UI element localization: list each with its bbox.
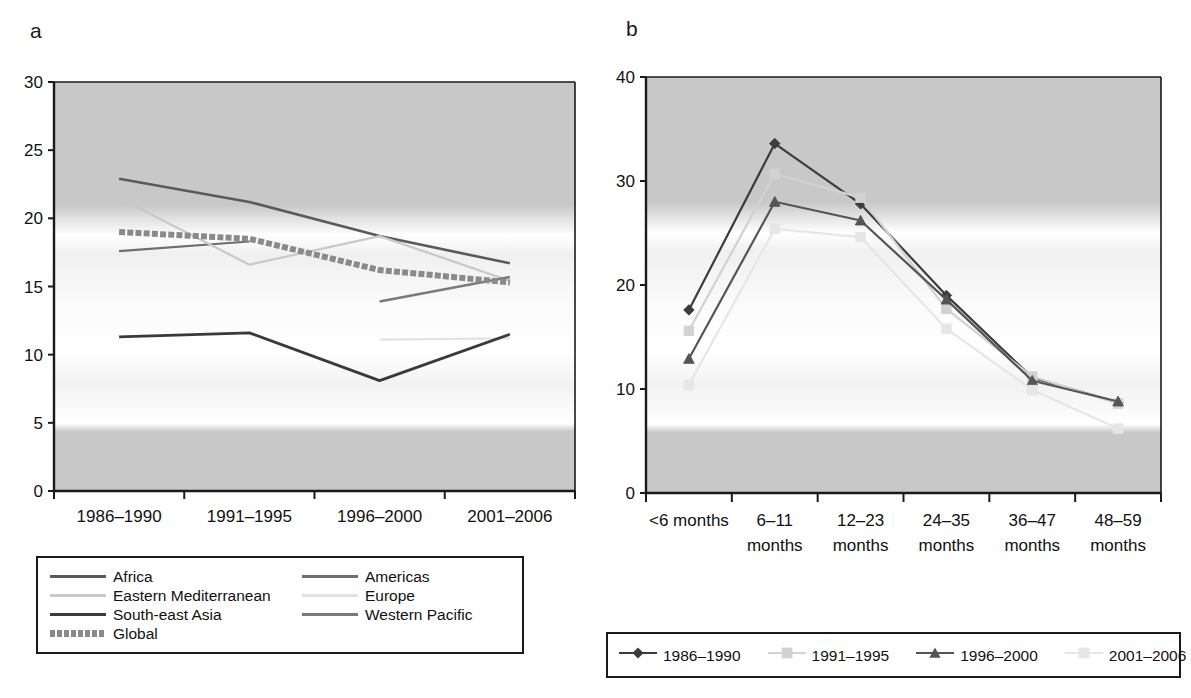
y-tick-label: 20 (24, 209, 43, 228)
legend-swatch-line-icon (302, 575, 358, 578)
plot-background (54, 82, 575, 491)
x-category-label-line2: months (1004, 536, 1060, 555)
data-point-square-marker (1113, 424, 1122, 433)
x-category-label-line2: months (747, 536, 803, 555)
legend-swatch-line-icon (50, 630, 106, 637)
legend-swatch-line-icon (302, 594, 358, 597)
legend-label: 1996–2000 (960, 647, 1038, 664)
data-point-square-marker (770, 224, 779, 233)
legend-label: Global (113, 625, 158, 642)
x-category-label: 1986–1990 (77, 507, 162, 526)
y-tick-label: 20 (616, 276, 635, 295)
chart-b-plot: 010203040<6 months6–11months12–23months2… (596, 0, 1191, 698)
series-line-europe (380, 338, 510, 339)
legend-b-row: 1986–19901991–19951996–20002001–2006 (608, 634, 1179, 676)
legend-marker-square-icon (1064, 645, 1104, 665)
data-point-square-marker (684, 380, 693, 389)
x-category-label: <6 months (649, 511, 729, 530)
x-category-label: 12–23 (837, 511, 884, 530)
y-tick-label: 5 (34, 414, 43, 433)
legend-item-2001-2006[interactable]: 2001–2006 (1064, 645, 1187, 665)
data-point-square-marker (770, 169, 779, 178)
panel-a: a 0510152025301986–19901991–19951996–200… (0, 0, 596, 698)
x-category-label: 1996–2000 (337, 507, 422, 526)
y-tick-label: 0 (34, 482, 43, 501)
data-point-square-marker (684, 326, 693, 335)
legend-swatch-line-icon (50, 613, 106, 616)
y-tick-label: 10 (616, 380, 635, 399)
legend-label: South-east Asia (113, 606, 222, 623)
y-tick-label: 25 (24, 141, 43, 160)
x-category-label: 1991–1995 (207, 507, 292, 526)
legend-a-grid: AfricaEastern MediterraneanSouth-east As… (38, 558, 522, 652)
legend-item-europe[interactable]: Europe (302, 586, 522, 605)
panel-b: b 010203040<6 months6–11months12–23month… (596, 0, 1191, 698)
x-category-label: 6–11 (756, 511, 793, 530)
legend-swatch-line-icon (50, 575, 106, 578)
data-point-square-marker (856, 193, 865, 202)
legend-marker-square-icon (767, 645, 807, 665)
y-tick-label: 30 (616, 172, 635, 191)
legend-item-africa[interactable]: Africa (50, 567, 302, 586)
legend-label: Africa (113, 568, 153, 585)
x-category-label-line2: months (919, 536, 975, 555)
legend-label: 2001–2006 (1109, 647, 1187, 664)
legend-marker-triangle-icon (915, 645, 955, 665)
legend-item-western-pacific[interactable]: Western Pacific (302, 605, 522, 624)
x-category-label: 48–59 (1094, 511, 1141, 530)
data-point-square-marker (1028, 385, 1037, 394)
legend-marker-diamond-icon (618, 645, 658, 665)
x-category-label: 24–35 (923, 511, 970, 530)
y-tick-label: 40 (616, 68, 635, 87)
legend-swatch-line-icon (50, 594, 106, 597)
legend-item-1996-2000[interactable]: 1996–2000 (915, 645, 1038, 665)
plot-background (646, 77, 1161, 493)
data-point-square-marker (856, 232, 865, 241)
legend-item-eastern-mediterranean[interactable]: Eastern Mediterranean (50, 586, 302, 605)
y-tick-label: 15 (24, 278, 43, 297)
x-category-label: 2001–2006 (467, 507, 552, 526)
data-point-square-marker (942, 324, 951, 333)
legend-item-global[interactable]: Global (50, 624, 302, 643)
legend-swatch-line-icon (302, 613, 358, 616)
legend-label: Europe (365, 587, 415, 604)
legend-label: Americas (365, 568, 430, 585)
chart-b-legend: 1986–19901991–19951996–20002001–2006 (606, 632, 1181, 678)
legend-label: Eastern Mediterranean (113, 587, 271, 604)
y-tick-label: 0 (626, 484, 635, 503)
legend-label: Western Pacific (365, 606, 472, 623)
legend-item-south-east-asia[interactable]: South-east Asia (50, 605, 302, 624)
legend-item-1986-1990[interactable]: 1986–1990 (618, 645, 741, 665)
y-tick-label: 10 (24, 346, 43, 365)
legend-label: 1991–1995 (812, 647, 890, 664)
x-category-label-line2: months (1090, 536, 1146, 555)
legend-item-1991-1995[interactable]: 1991–1995 (767, 645, 890, 665)
y-tick-label: 30 (24, 73, 43, 92)
data-point-square-marker (942, 304, 951, 313)
x-category-label-line2: months (833, 536, 889, 555)
chart-a-legend: AfricaEastern MediterraneanSouth-east As… (36, 556, 524, 654)
legend-label: 1986–1990 (663, 647, 741, 664)
chart-b-svg: 010203040<6 months6–11months12–23months2… (596, 0, 1191, 698)
x-category-label: 36–47 (1009, 511, 1056, 530)
legend-item-americas[interactable]: Americas (302, 567, 522, 586)
